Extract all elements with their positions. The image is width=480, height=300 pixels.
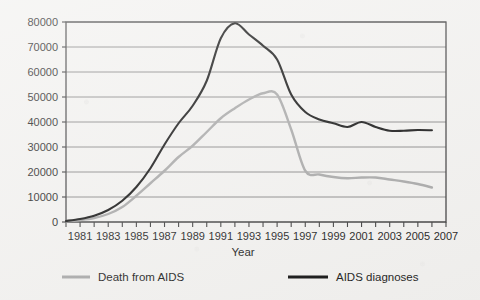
x-axis-tick-label: 2007	[434, 230, 458, 242]
legend-label-death-from-aids: Death from AIDS	[98, 271, 185, 283]
y-axis-tick-label: 50000	[27, 91, 58, 103]
x-axis-tick-label: 2003	[377, 230, 401, 242]
x-axis-tick-label: 1981	[68, 230, 92, 242]
aids-line-chart: 0100002000030000400005000060000700008000…	[0, 0, 480, 300]
x-axis-tick-label: 1991	[209, 230, 233, 242]
chart-canvas: 0100002000030000400005000060000700008000…	[0, 0, 480, 300]
x-axis-tick-label: 1993	[237, 230, 261, 242]
legend-label-aids-diagnoses: AIDS diagnoses	[336, 271, 419, 283]
x-axis-tick-label: 1985	[124, 230, 148, 242]
x-axis-tick-label: 1995	[265, 230, 289, 242]
x-axis-tick-label: 1989	[180, 230, 204, 242]
y-axis-tick-label: 0	[52, 216, 58, 228]
x-axis-tick-label: 1999	[321, 230, 345, 242]
y-axis-tick-label: 30000	[27, 141, 58, 153]
y-axis-tick-label: 60000	[27, 66, 58, 78]
x-axis-tick-label: 1997	[293, 230, 317, 242]
x-axis-tick-label: 1983	[96, 230, 120, 242]
y-axis-tick-label: 20000	[27, 166, 58, 178]
y-axis-tick-label: 70000	[27, 41, 58, 53]
x-axis-title: Year	[231, 246, 254, 258]
y-axis-tick-label: 80000	[27, 16, 58, 28]
y-axis-tick-labels: 0100002000030000400005000060000700008000…	[27, 16, 58, 228]
y-axis-tick-label: 40000	[27, 116, 58, 128]
y-axis-tick-label: 10000	[27, 191, 58, 203]
x-axis-tick-label: 2005	[406, 230, 430, 242]
x-axis-tick-label: 2001	[349, 230, 373, 242]
x-axis-tick-label: 1987	[152, 230, 176, 242]
